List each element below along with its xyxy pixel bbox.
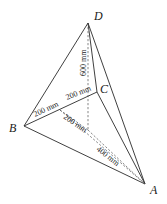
tetrahedron-diagram: D C B A 600 mm 200 mm 200 mm 200 mm 400 … xyxy=(0,0,167,204)
edge-c-a xyxy=(97,92,145,184)
dim-label-200mm-lower: 200 mm xyxy=(62,112,89,135)
edge-b-a xyxy=(24,126,145,184)
edge-d-c xyxy=(88,23,97,92)
vertex-label-a: A xyxy=(149,183,158,197)
dim-label-600mm: 600 mm xyxy=(79,49,88,76)
vertex-label-b: B xyxy=(9,121,17,135)
vertex-label-d: D xyxy=(93,9,103,23)
dim-label-400mm: 400 mm xyxy=(95,144,122,168)
dim-label-200mm-upper: 200 mm xyxy=(64,83,93,102)
vertex-label-c: C xyxy=(100,82,109,96)
